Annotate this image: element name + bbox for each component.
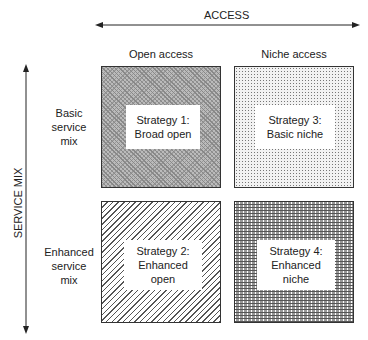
strategy-4-name-line2: niche <box>269 272 322 286</box>
strategy-2-label: Strategy 2:Enhancedopen <box>124 240 202 290</box>
strategy-3-name: Basic niche <box>267 127 323 141</box>
strategy-2-name-line1: Enhanced <box>136 258 189 272</box>
quadrant-strategy-2: Strategy 2:Enhancedopen <box>101 201 221 323</box>
strategy-4-label: Strategy 4:Enhancedniche <box>257 240 335 290</box>
row-label-enhanced-service-mix: Enhanced service mix <box>34 245 104 287</box>
strategy-1-name: Broad open <box>135 127 192 141</box>
strategy-3-label: Strategy 3:Basic niche <box>255 105 335 149</box>
strategy-1-label: Strategy 1:Broad open <box>126 105 200 149</box>
column-label-open-access: Open access <box>100 48 222 60</box>
strategy-4-title: Strategy 4: <box>269 244 322 258</box>
strategy-1-title: Strategy 1: <box>135 113 192 127</box>
strategy-2-title: Strategy 2: <box>136 244 189 258</box>
quadrant-strategy-4: Strategy 4:Enhancedniche <box>234 201 354 323</box>
row-label-basic-service-mix: Basic service mix <box>34 106 104 148</box>
service-mix-axis-title: SERVICE MIX <box>12 163 24 243</box>
strategy-3-title: Strategy 3: <box>267 113 323 127</box>
quadrant-strategy-3: Strategy 3:Basic niche <box>234 66 354 188</box>
column-label-niche-access: Niche access <box>233 48 355 60</box>
strategy-2-name-line2: open <box>136 272 189 286</box>
access-axis-arrow <box>95 20 360 30</box>
strategy-4-name-line1: Enhanced <box>269 258 322 272</box>
quadrant-strategy-1: Strategy 1:Broad open <box>101 66 221 188</box>
